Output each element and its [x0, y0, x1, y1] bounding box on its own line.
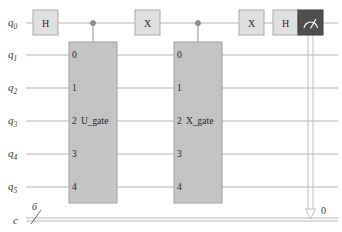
qubit-label-q0: q0	[8, 16, 18, 31]
measurement-clbit-index: 0	[321, 205, 326, 216]
classical-register-label: c	[13, 214, 18, 226]
qubit-label-q2: q2	[8, 81, 18, 96]
x-gate-port-4: 4	[177, 182, 182, 192]
qubit-label-q3: q3	[8, 114, 18, 129]
creg-slash-icon	[31, 210, 41, 224]
u-gate-port-0: 0	[72, 50, 77, 60]
gate-h-1[interactable]: H	[33, 10, 58, 35]
control-dot-x-gate[interactable]	[195, 20, 200, 25]
qubit-label-q1: q1	[8, 48, 17, 63]
x-gate-port-3: 3	[177, 149, 182, 159]
control-dot-u-gate[interactable]	[90, 20, 95, 25]
classical-register-wire	[26, 210, 338, 224]
x-gate-port-0: 0	[177, 50, 182, 60]
u-gate-port-4: 4	[72, 182, 77, 192]
gate-x-2[interactable]: X	[239, 10, 264, 35]
x-gate-2-label: X	[248, 18, 256, 29]
gate-measure[interactable]	[298, 10, 323, 35]
gate-h-2[interactable]: H	[273, 10, 298, 35]
multi-gate-x-gate[interactable]: 0 1 2 3 4 X_gate	[174, 42, 222, 203]
u-gate-port-3: 3	[72, 149, 77, 159]
multi-gate-u-gate[interactable]: 0 1 2 3 4 U_gate	[69, 42, 117, 203]
u-gate-port-1: 1	[72, 83, 77, 93]
x-gate-1-label: X	[144, 18, 152, 29]
h-gate-1-label: H	[42, 18, 49, 29]
u-gate-port-2: 2	[72, 116, 77, 126]
quantum-circuit-diagram: q0 q1 q2 q3 q4 q5 c 6 0 1 2 3 4 U_gate	[0, 0, 342, 232]
h-gate-2-label: H	[282, 18, 289, 29]
u-gate-label: U_gate	[81, 116, 108, 126]
qubit-label-q5: q5	[8, 180, 18, 195]
x-gate-label: X_gate	[186, 116, 213, 126]
classical-register-width: 6	[32, 201, 37, 212]
qubit-labels: q0 q1 q2 q3 q4 q5	[8, 16, 18, 195]
qubit-label-q4: q4	[8, 147, 18, 162]
measurement-connection: 0	[306, 35, 327, 219]
x-gate-port-1: 1	[177, 83, 182, 93]
x-gate-port-2: 2	[177, 116, 182, 126]
gate-x-1[interactable]: X	[135, 10, 160, 35]
